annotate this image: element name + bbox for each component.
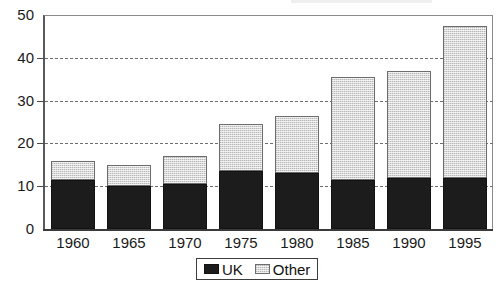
bar-segment-uk xyxy=(51,180,95,229)
legend-label: UK xyxy=(222,262,243,277)
x-tick-label: 1970 xyxy=(155,233,215,253)
bar-segment-other xyxy=(107,165,151,186)
x-tick-label: 1990 xyxy=(379,233,439,253)
bar-segment-uk xyxy=(275,173,319,229)
y-tick-label-text: 20 xyxy=(0,135,34,150)
bar-segment-uk xyxy=(331,180,375,229)
y-tick-label-text: 10 xyxy=(0,178,34,193)
scan-artifact xyxy=(0,0,502,3)
bar-segment-other xyxy=(219,124,263,171)
x-axis-line xyxy=(43,229,493,231)
y-tick-label: 10 xyxy=(0,178,34,193)
bar-segment-other xyxy=(51,161,95,180)
x-tick-label: 1960 xyxy=(43,233,103,253)
y-tick-label-text: 0 xyxy=(0,221,34,236)
bar-segment-other xyxy=(331,77,375,180)
light-gray-dotted-swatch xyxy=(255,264,270,274)
y-tick-label: 50 xyxy=(0,7,34,22)
legend-item: Other xyxy=(255,262,311,277)
y-tick-40 xyxy=(37,58,45,59)
bar-segment-other xyxy=(443,26,487,178)
bar-series-layer xyxy=(45,15,493,229)
y-tick-20 xyxy=(37,143,45,144)
stacked-bar-chart: 50403020100 1960196519701975198019851990… xyxy=(0,0,502,285)
y-tick-10 xyxy=(37,186,45,187)
y-tick-label-text: 40 xyxy=(0,50,34,65)
black-solid-swatch xyxy=(204,264,219,274)
y-tick-label: 20 xyxy=(0,135,34,150)
x-tick-label: 1965 xyxy=(99,233,159,253)
y-tick-label: 30 xyxy=(0,93,34,108)
bar-segment-uk xyxy=(107,186,151,229)
bar-segment-uk xyxy=(443,178,487,229)
y-tick-label: 40 xyxy=(0,50,34,65)
x-tick-label: 1985 xyxy=(323,233,383,253)
bar-segment-other xyxy=(275,116,319,174)
x-tick-label: 1975 xyxy=(211,233,271,253)
bar-segment-uk xyxy=(387,178,431,229)
x-axis-labels: 19601965197019751980198519901995 xyxy=(45,233,493,255)
x-tick-label: 1995 xyxy=(435,233,495,253)
bar-segment-uk xyxy=(219,171,263,229)
bar-segment-other xyxy=(163,156,207,184)
y-tick-label-text: 30 xyxy=(0,93,34,108)
x-tick-label: 1980 xyxy=(267,233,327,253)
legend-item: UK xyxy=(204,262,243,277)
y-tick-30 xyxy=(37,101,45,102)
bar-segment-uk xyxy=(163,184,207,229)
legend-label: Other xyxy=(273,262,311,277)
y-tick-label-text: 50 xyxy=(0,7,34,22)
bar-segment-other xyxy=(387,71,431,178)
y-tick-label: 0 xyxy=(0,221,34,236)
chart-legend: UKOther xyxy=(196,258,318,280)
